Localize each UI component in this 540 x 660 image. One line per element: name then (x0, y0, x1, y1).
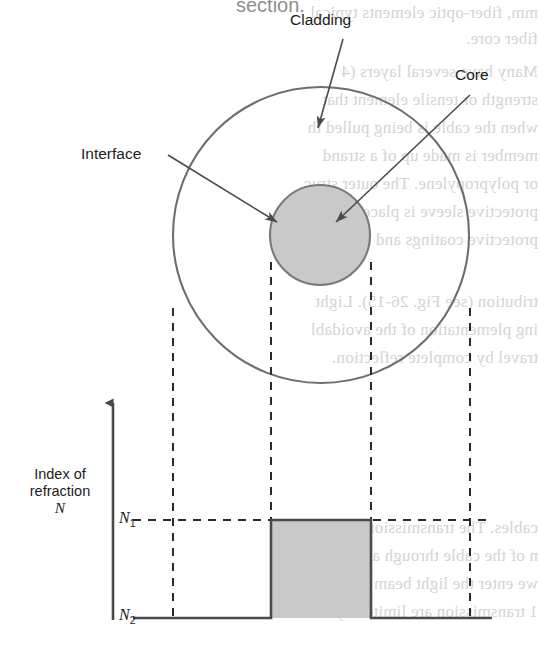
y-tick-n1-subscript: 1 (130, 517, 136, 529)
y-axis-title-symbol: N (55, 499, 65, 516)
y-tick-n2-symbol: N (119, 606, 130, 623)
core-circle (270, 185, 370, 285)
y-tick-n1-symbol: N (119, 509, 130, 526)
cladding-label: Cladding (290, 11, 351, 29)
cladding-leader-line (318, 39, 343, 128)
y-axis-title-line1: Index of (34, 466, 86, 482)
y-tick-n1: N1 (119, 509, 136, 529)
interface-leader-line (168, 155, 277, 222)
y-axis-title: Index of refraction N (14, 466, 106, 517)
core-leader-line (336, 95, 470, 222)
interface-label: Interface (81, 145, 141, 163)
y-tick-n2-subscript: 2 (130, 614, 136, 626)
core-index-region (271, 520, 371, 618)
y-axis-title-line2: refraction (30, 483, 90, 499)
figure-svg (0, 0, 540, 660)
core-label: Core (455, 66, 489, 84)
figure-root: section. mm, fiber-optic elements typica… (0, 0, 540, 660)
y-tick-n2: N2 (119, 606, 136, 626)
